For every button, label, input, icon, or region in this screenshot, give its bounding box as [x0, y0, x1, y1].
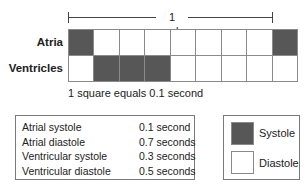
legend-swatch-systole — [231, 122, 254, 145]
duration-value: 0.1 second — [139, 120, 190, 134]
grid-cell-atria-5-diastole — [171, 30, 196, 56]
duration-name: Atrial diastole — [22, 135, 85, 149]
grid-cell-ventricles-1-diastole — [69, 56, 94, 82]
grid-cell-ventricles-6-diastole — [196, 56, 221, 82]
duration-name: Ventricular systole — [22, 149, 107, 163]
row-label-ventricles: Ventricles — [9, 61, 63, 75]
legend-label-systole: Systole — [259, 126, 295, 140]
duration-value: 0.7 seconds — [139, 135, 196, 149]
durations-table: Atrial systole 0.1 second Atrial diastol… — [15, 115, 195, 180]
duration-value: 0.3 seconds — [139, 149, 196, 163]
legend: Systole Diastole — [223, 115, 300, 180]
grid-cell-atria-9-systole — [273, 30, 298, 56]
duration-value: 0.5 seconds — [139, 164, 196, 178]
grid-cell-atria-7-diastole — [222, 30, 247, 56]
grid-cell-atria-3-diastole — [120, 30, 145, 56]
grid-cell-ventricles-2-systole — [94, 56, 119, 82]
grid-cell-ventricles-4-systole — [145, 56, 170, 82]
grid-cell-ventricles-7-diastole — [222, 56, 247, 82]
grid-cell-ventricles-3-systole — [120, 56, 145, 82]
grid-cell-atria-4-diastole — [145, 30, 170, 56]
duration-row-atrial-systole: Atrial systole 0.1 second — [16, 120, 194, 134]
grid-cell-atria-6-diastole — [196, 30, 221, 56]
row-label-atria: Atria — [37, 35, 63, 49]
duration-row-ventricular-diastole: Ventricular diastole 0.5 seconds — [16, 164, 194, 178]
grid-cell-atria-8-diastole — [247, 30, 272, 56]
cycle-bracket-end-tick — [272, 12, 273, 23]
grid-cell-ventricles-8-diastole — [247, 56, 272, 82]
duration-row-ventricular-systole: Ventricular systole 0.3 seconds — [16, 149, 194, 163]
duration-name: Ventricular diastole — [22, 164, 111, 178]
duration-name: Atrial systole — [22, 120, 82, 134]
scale-note: 1 square equals 0.1 second — [68, 86, 203, 100]
grid-cell-atria-2-diastole — [94, 30, 119, 56]
grid-cell-atria-1-systole — [69, 30, 94, 56]
cardiac-cycle-grid — [68, 29, 298, 82]
legend-swatch-diastole — [231, 151, 254, 174]
grid-cell-ventricles-9-diastole — [273, 56, 298, 82]
grid-cell-ventricles-5-diastole — [171, 56, 196, 82]
duration-row-atrial-diastole: Atrial diastole 0.7 seconds — [16, 135, 194, 149]
legend-label-diastole: Diastole — [259, 156, 299, 170]
